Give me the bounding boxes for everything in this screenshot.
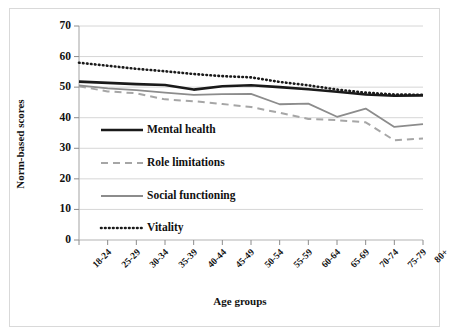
gridlines-group	[79, 26, 423, 209]
y-tick-label: 50	[45, 81, 71, 93]
y-axis-title: Norm-based scores	[14, 79, 26, 209]
y-tick-label: 40	[45, 112, 71, 124]
legend-label-role-limitations: Role limitations	[147, 156, 225, 168]
legend-label-vitality: Vitality	[147, 221, 184, 233]
y-tick-label: 0	[45, 234, 71, 246]
y-tick-label: 10	[45, 203, 71, 215]
data-series-group	[79, 63, 423, 141]
axis-ticks-group	[74, 26, 423, 245]
x-axis-title: Age groups	[80, 295, 400, 307]
y-tick-label: 70	[45, 20, 71, 32]
axis-lines-group	[79, 26, 423, 240]
legend-label-mental-health: Mental health	[147, 123, 216, 135]
figure-container: 010203040506070 18-2425-2930-3435-3940-4…	[0, 0, 449, 336]
y-tick-label: 30	[45, 142, 71, 154]
legend-label-social-functioning: Social functioning	[147, 189, 236, 201]
y-tick-label: 60	[45, 51, 71, 63]
y-tick-label: 20	[45, 173, 71, 185]
